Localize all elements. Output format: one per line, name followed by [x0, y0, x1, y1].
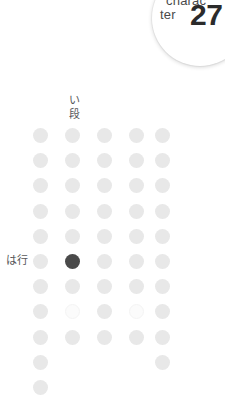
grid-cell[interactable] — [155, 254, 170, 269]
grid-cell[interactable] — [33, 229, 48, 244]
grid-cell[interactable] — [65, 229, 80, 244]
grid-row — [33, 330, 173, 355]
badge-label-line-2: ter — [160, 8, 176, 22]
grid-row — [33, 304, 173, 329]
grid-cell[interactable] — [97, 229, 112, 244]
grid-row — [33, 178, 173, 203]
grid-row — [33, 204, 173, 229]
grid-cell[interactable] — [97, 178, 112, 193]
grid-cell[interactable] — [155, 229, 170, 244]
grid-row — [33, 279, 173, 304]
grid-cell[interactable] — [65, 153, 80, 168]
character-count-value: 27 — [190, 0, 222, 30]
grid-cell[interactable] — [97, 330, 112, 345]
column-header-label: い 段 — [66, 93, 82, 121]
grid-cell[interactable] — [97, 304, 112, 319]
grid-cell[interactable] — [129, 304, 144, 319]
grid-cell[interactable] — [33, 128, 48, 143]
grid-cell[interactable] — [155, 330, 170, 345]
grid-cell[interactable] — [129, 178, 144, 193]
grid-cell[interactable] — [155, 153, 170, 168]
grid-cell[interactable] — [65, 330, 80, 345]
grid-cell[interactable] — [129, 279, 144, 294]
grid-row — [33, 153, 173, 178]
grid-row — [33, 254, 173, 279]
grid-cell[interactable] — [33, 304, 48, 319]
grid-cell[interactable] — [129, 204, 144, 219]
grid-cell[interactable] — [129, 254, 144, 269]
grid-cell[interactable] — [155, 355, 170, 370]
character-counter-badge-inner: charac ter 27 — [152, 0, 225, 66]
row-header-label: は行 — [6, 253, 28, 267]
grid-row — [33, 128, 173, 153]
grid-cell[interactable] — [129, 330, 144, 345]
grid-cell[interactable] — [97, 128, 112, 143]
kana-dot-grid — [33, 128, 173, 408]
grid-cell[interactable] — [155, 304, 170, 319]
grid-cell[interactable] — [129, 128, 144, 143]
grid-cell[interactable] — [33, 254, 48, 269]
grid-cell[interactable] — [33, 178, 48, 193]
grid-cell[interactable] — [33, 355, 48, 370]
grid-row — [33, 229, 173, 254]
grid-cell[interactable] — [65, 304, 80, 319]
grid-cell[interactable] — [33, 380, 48, 395]
grid-cell[interactable] — [97, 204, 112, 219]
grid-cell[interactable] — [65, 279, 80, 294]
grid-cell[interactable] — [155, 128, 170, 143]
grid-cell[interactable] — [129, 229, 144, 244]
grid-cell[interactable] — [33, 330, 48, 345]
grid-cell[interactable] — [33, 153, 48, 168]
grid-cell[interactable] — [129, 153, 144, 168]
grid-cell[interactable] — [155, 178, 170, 193]
grid-cell[interactable] — [33, 279, 48, 294]
grid-cell[interactable] — [65, 204, 80, 219]
grid-cell[interactable] — [97, 279, 112, 294]
grid-row — [33, 355, 173, 380]
character-counter-badge[interactable]: charac ter 27 — [152, 0, 225, 66]
grid-cell-current[interactable] — [65, 254, 80, 269]
column-header-char-1: い — [66, 93, 82, 107]
grid-cell[interactable] — [33, 204, 48, 219]
grid-cell[interactable] — [65, 128, 80, 143]
grid-cell[interactable] — [155, 204, 170, 219]
grid-cell[interactable] — [97, 254, 112, 269]
grid-cell[interactable] — [65, 178, 80, 193]
column-header-char-2: 段 — [66, 107, 82, 121]
grid-cell[interactable] — [155, 279, 170, 294]
grid-row — [33, 380, 173, 405]
grid-cell[interactable] — [97, 153, 112, 168]
